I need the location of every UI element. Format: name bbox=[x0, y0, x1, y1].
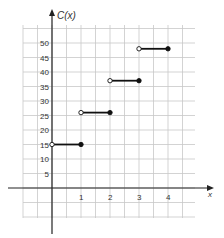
x-tick-label: 4 bbox=[166, 193, 171, 202]
x-tick-label: 3 bbox=[137, 193, 142, 202]
step-chart: 12345101520253035404550 C(x) x bbox=[0, 0, 224, 238]
y-tick-label: 25 bbox=[40, 112, 49, 121]
y-tick-label: 45 bbox=[40, 54, 49, 63]
y-tick-label: 40 bbox=[40, 68, 49, 77]
y-tick-label: 10 bbox=[40, 155, 49, 164]
closed-endpoint-icon bbox=[108, 110, 112, 114]
y-tick-label: 35 bbox=[40, 83, 49, 92]
open-endpoint-icon bbox=[137, 47, 141, 51]
closed-endpoint-icon bbox=[166, 47, 170, 51]
x-tick-label: 1 bbox=[79, 193, 84, 202]
x-tick-label: 2 bbox=[108, 193, 113, 202]
closed-endpoint-icon bbox=[137, 79, 141, 83]
x-axis-label: x bbox=[207, 190, 213, 199]
open-endpoint-icon bbox=[108, 79, 112, 83]
y-tick-label: 5 bbox=[45, 170, 50, 179]
y-axis-arrow-icon bbox=[49, 9, 55, 16]
y-tick-label: 50 bbox=[40, 39, 49, 48]
y-tick-label: 15 bbox=[40, 141, 49, 150]
open-endpoint-icon bbox=[79, 110, 83, 114]
y-tick-label: 30 bbox=[40, 97, 49, 106]
y-tick-label: 20 bbox=[40, 126, 49, 135]
y-axis-label: C(x) bbox=[57, 10, 76, 21]
tick-labels: 12345101520253035404550 bbox=[40, 39, 171, 202]
open-endpoint-icon bbox=[50, 142, 54, 146]
closed-endpoint-icon bbox=[79, 142, 83, 146]
